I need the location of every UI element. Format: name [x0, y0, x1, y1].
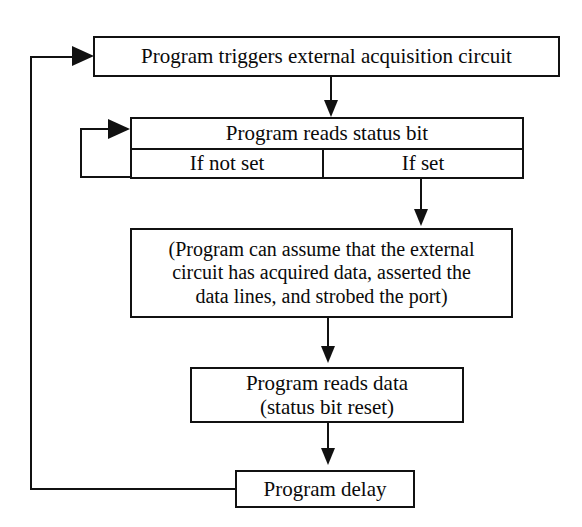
notset-loop-bottom-segment	[80, 176, 132, 178]
assume-to-readdata-arrowhead-icon	[321, 346, 335, 363]
node-assume-line-1: (Program can assume that the external	[132, 238, 511, 261]
branch-if-set[interactable]: If set	[324, 150, 522, 177]
delay-loop-arrowhead-icon	[72, 46, 94, 66]
trigger-to-status-arrowhead-icon	[324, 100, 338, 117]
assume-to-readdata-line	[327, 318, 329, 346]
node-program-triggers-circuit[interactable]: Program triggers external acquisition ci…	[93, 36, 560, 77]
delay-loop-left-segment	[30, 56, 32, 490]
ifset-to-assume-arrowhead-icon	[414, 209, 428, 226]
notset-loop-top-segment	[80, 128, 110, 130]
node-program-reads-data[interactable]: Program reads data (status bit reset)	[190, 367, 464, 423]
node-program-reads-status-bit[interactable]: Program reads status bit If not set If s…	[130, 117, 524, 179]
status-branch-row: If not set If set	[132, 148, 522, 177]
notset-loop-arrowhead-icon	[108, 119, 130, 139]
node-readdata-line-2: (status bit reset)	[192, 395, 462, 419]
node-delay-label: Program delay	[237, 477, 413, 501]
delay-loop-bottom-segment	[30, 488, 236, 490]
status-head-row: Program reads status bit	[132, 119, 522, 148]
branch-if-set-label: If set	[324, 151, 522, 175]
readdata-to-delay-line	[327, 423, 329, 449]
node-assume-line-2: circuit has acquired data, asserted the	[132, 261, 511, 284]
node-trigger-label: Program triggers external acquisition ci…	[95, 44, 558, 68]
node-status-label: Program reads status bit	[132, 121, 522, 145]
delay-loop-top-segment	[30, 56, 74, 58]
node-readdata-line-1: Program reads data	[192, 371, 462, 395]
branch-if-not-set-label: If not set	[132, 151, 322, 175]
ifset-to-assume-line	[420, 179, 422, 211]
node-program-can-assume[interactable]: (Program can assume that the external ci…	[130, 228, 513, 318]
branch-if-not-set[interactable]: If not set	[132, 150, 324, 177]
node-program-delay[interactable]: Program delay	[235, 470, 415, 508]
flowchart-canvas: Program triggers external acquisition ci…	[0, 0, 582, 527]
notset-loop-left-segment	[80, 128, 82, 178]
node-assume-line-3: data lines, and strobed the port)	[132, 285, 511, 308]
readdata-to-delay-arrowhead-icon	[321, 448, 335, 465]
